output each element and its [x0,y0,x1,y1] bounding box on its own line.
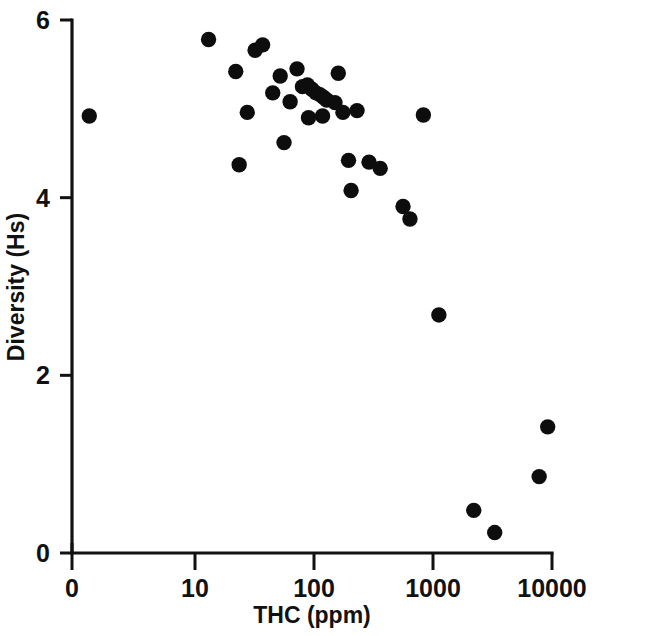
scatter-point [265,85,280,100]
x-tick-label: 10000 [517,574,587,602]
scatter-point [335,105,350,120]
scatter-point [228,64,243,79]
x-tick-label: 1000 [405,574,461,602]
x-tick-label: 0 [65,574,79,602]
x-axis-title: THC (ppm) [253,602,371,628]
scatter-point [276,135,291,150]
y-axis-ticks: 0246 [36,6,72,567]
scatter-point [431,307,446,322]
scatter-point [240,105,255,120]
x-tick-label: 100 [293,574,335,602]
scatter-point [402,211,417,226]
axes [72,20,552,553]
y-tick-label: 4 [36,184,50,212]
scatter-point [466,503,481,518]
scatter-point [416,107,431,122]
scatter-point [301,110,316,125]
scatter-point [282,94,297,109]
scatter-point [289,61,304,76]
scatter-point [349,103,364,118]
scatter-point [331,66,346,81]
scatter-point [255,37,270,52]
scatter-point [201,32,216,47]
y-axis-title: Diversity (Hs) [3,213,29,361]
y-tick-label: 2 [36,361,50,389]
scatter-point [231,157,246,172]
scatter-point [273,68,288,83]
plot-canvas: 010100100010000 0246 THC (ppm) Diversity… [0,0,666,636]
scatter-point [82,108,97,123]
scatter-plot-figure: 010100100010000 0246 THC (ppm) Diversity… [0,0,666,636]
scatter-point [531,469,546,484]
x-tick-label: 10 [181,574,209,602]
scatter-point [540,419,555,434]
scatter-point [341,153,356,168]
scatter-point [315,108,330,123]
scatter-point [487,525,502,540]
data-points [82,32,556,540]
y-tick-label: 0 [36,539,50,567]
scatter-point [373,161,388,176]
y-tick-label: 6 [36,6,50,34]
scatter-point [343,183,358,198]
